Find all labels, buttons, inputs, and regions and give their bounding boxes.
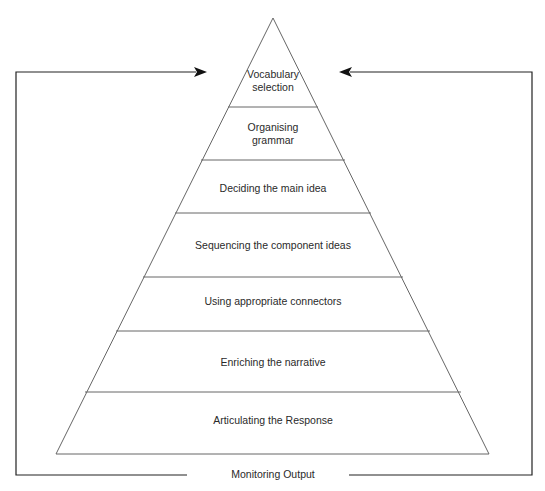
layer-label-sequencing: Sequencing the component ideas <box>195 239 351 252</box>
layer-label-articulating: Articulating the Response <box>213 414 333 427</box>
layer-label-enriching: Enriching the narrative <box>220 356 325 369</box>
feedback-label: Monitoring Output <box>231 468 314 480</box>
feedback-line-left <box>16 72 196 475</box>
layer-text: Vocabulary <box>247 68 299 81</box>
layer-text: Organising <box>248 121 299 134</box>
layer-text: selection <box>247 81 299 94</box>
layer-label-connectors: Using appropriate connectors <box>204 295 341 308</box>
layer-label-grammar: Organising grammar <box>248 121 299 147</box>
layer-label-main-idea: Deciding the main idea <box>220 182 327 195</box>
layer-text: grammar <box>248 134 299 147</box>
feedback-line-right <box>349 72 532 475</box>
layer-label-vocabulary: Vocabulary selection <box>247 68 299 94</box>
